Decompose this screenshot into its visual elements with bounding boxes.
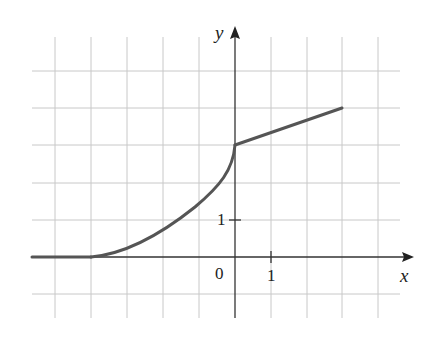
graph-canvas — [0, 0, 437, 339]
y-tick-label-1: 1 — [217, 211, 226, 228]
x-tick-label-1: 1 — [267, 267, 276, 284]
y-axis-label: y — [215, 23, 223, 42]
origin-label: 0 — [215, 265, 224, 282]
x-axis-label: x — [400, 266, 408, 285]
